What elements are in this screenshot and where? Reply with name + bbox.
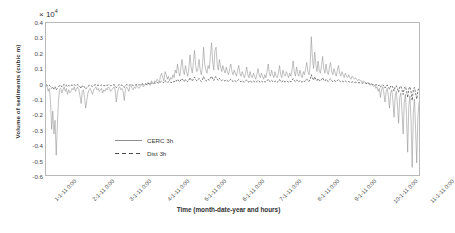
legend-label-dist: Dist 3h bbox=[147, 150, 166, 157]
x-axis-tick-label: 7-1-11 0:00 bbox=[278, 178, 302, 202]
series-canvas bbox=[46, 23, 419, 175]
y-axis-tick-label: 0 bbox=[40, 80, 43, 87]
y-axis-tick-label: -0.6 bbox=[32, 173, 43, 180]
x-axis-tick-label: 2-1-11 0:00 bbox=[91, 178, 115, 202]
x-axis-tick-label: 1-1-11 0:00 bbox=[53, 178, 77, 202]
legend-item-cerc: CERC 3h bbox=[115, 134, 173, 147]
x-axis-tick-label: 3-1-11 0:00 bbox=[128, 178, 152, 202]
x-axis-title: Time (month-date-year and hours) bbox=[0, 206, 435, 213]
y-axis-tick-label: -0.3 bbox=[32, 126, 43, 133]
y-axis-tick-label: 0.3 bbox=[34, 34, 43, 41]
y-axis-tick-label: 0.2 bbox=[34, 49, 43, 56]
x-axis-tick-label: 9-1-11 0:00 bbox=[353, 178, 377, 202]
y-axis-tick-label: -0.4 bbox=[32, 142, 43, 149]
x-axis-tick-label: 6-1-11 0:00 bbox=[241, 178, 265, 202]
plot-area: CERC 3h Dist 3h bbox=[45, 22, 420, 176]
legend-label-cerc: CERC 3h bbox=[147, 137, 173, 144]
legend-item-dist: Dist 3h bbox=[115, 147, 173, 160]
y-axis-tick-labels: 0.40.30.20.10-0.1-0.2-0.3-0.4-0.5-0.6 bbox=[22, 22, 43, 176]
y-axis-tick-label: -0.1 bbox=[32, 96, 43, 103]
y-axis-multiplier-exponent: 4 bbox=[55, 8, 58, 14]
chart-svg bbox=[46, 23, 419, 175]
x-axis-tick-label: 4-1-11 0:00 bbox=[166, 178, 190, 202]
x-axis-tick-label: 5-1-11 0:00 bbox=[203, 178, 227, 202]
x-axis-tick-label: 10-1-11 0:00 bbox=[392, 178, 418, 204]
x-axis-tick-labels: 1-1-11 0:002-1-11 0:003-1-11 0:004-1-11 … bbox=[45, 178, 420, 220]
series-line-dist-3h bbox=[46, 75, 419, 101]
y-axis-tick-label: -0.5 bbox=[32, 157, 43, 164]
y-axis-tick-label: 0.4 bbox=[34, 19, 43, 26]
y-axis-title: Volume of sediments (cubic m) bbox=[14, 17, 21, 167]
legend-key-solid-line-icon bbox=[115, 140, 142, 141]
x-axis-tick-label: 8-1-11 0:00 bbox=[316, 178, 340, 202]
legend-key-dashed-line-icon bbox=[115, 153, 142, 154]
legend: CERC 3h Dist 3h bbox=[115, 134, 173, 160]
y-axis-multiplier-base: × 10 bbox=[39, 10, 55, 19]
x-axis-tick-label: 11-1-11 0:00 bbox=[429, 178, 455, 204]
y-axis-multiplier: × 104 bbox=[39, 8, 58, 19]
y-axis-tick-label: 0.1 bbox=[34, 65, 43, 72]
series-line-cerc-3h bbox=[46, 37, 419, 168]
y-axis-tick-label: -0.2 bbox=[32, 111, 43, 118]
